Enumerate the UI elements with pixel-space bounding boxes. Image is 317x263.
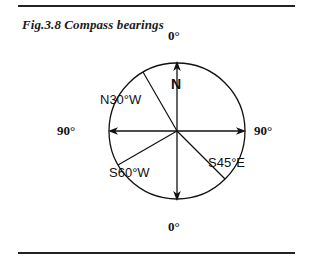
label-bearing-n30w: N30°W [100,93,141,106]
label-bearing-s60w: S60°W [109,166,150,179]
label-top-zero-degrees: 0° [168,29,180,42]
label-left-ninety-degrees: 90° [57,124,75,137]
label-north-cardinal: N [171,77,181,91]
label-right-ninety-degrees: 90° [254,124,272,137]
label-bottom-zero-degrees: 0° [168,220,180,233]
bearing-ray-s60w [118,131,177,165]
bottom-divider-rule [18,252,295,254]
figure-page: Fig.3.8 Compass bearings 0° 0° 90° 90° N… [0,0,317,263]
label-bearing-s45e: S45°E [208,156,245,169]
